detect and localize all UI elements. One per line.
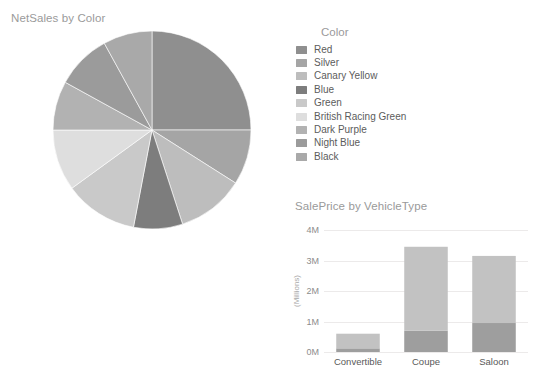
legend-item-label: Silver xyxy=(314,58,339,68)
pie-slice[interactable] xyxy=(152,31,251,130)
legend-item[interactable]: Silver xyxy=(293,56,453,69)
legend-item[interactable]: Black xyxy=(293,150,453,163)
legend-item-list: RedSilverCanary YellowBlueGreenBritish R… xyxy=(293,43,453,164)
pie-slice-group xyxy=(53,31,251,229)
bar-chart-svg: 0M1M2M3M4M ConvertibleCoupeSaloon (Milli… xyxy=(290,224,534,372)
pie-chart-title: NetSales by Color xyxy=(11,12,105,24)
legend-swatch-icon xyxy=(296,126,307,134)
bar-y-axis-ticks: 0M1M2M3M4M xyxy=(306,225,319,357)
legend-item[interactable]: British Racing Green xyxy=(293,110,453,123)
bar-x-axis-categories: ConvertibleCoupeSaloon xyxy=(334,356,509,367)
pie-chart-plot-area[interactable] xyxy=(52,30,252,230)
legend-item[interactable]: Dark Purple xyxy=(293,123,453,136)
legend-swatch-icon xyxy=(296,113,307,121)
legend-item[interactable]: Night Blue xyxy=(293,137,453,150)
bar-segment[interactable] xyxy=(336,334,380,349)
color-legend[interactable]: Color RedSilverCanary YellowBlueGreenBri… xyxy=(293,26,453,164)
legend-item-label: British Racing Green xyxy=(314,112,406,122)
bar-segment[interactable] xyxy=(404,331,448,352)
legend-item-label: Canary Yellow xyxy=(314,71,377,81)
y-axis-title-label: (Millions) xyxy=(292,275,301,307)
pie-chart-svg xyxy=(52,30,252,230)
bar-segment[interactable] xyxy=(472,323,516,352)
bar-y-axis-title: (Millions) xyxy=(292,275,301,307)
legend-item[interactable]: Red xyxy=(293,43,453,56)
legend-item-label: Dark Purple xyxy=(314,125,367,135)
legend-swatch-icon xyxy=(296,139,307,147)
legend-item-label: Blue xyxy=(314,85,334,95)
y-axis-tick-label: 0M xyxy=(306,347,319,357)
x-axis-category-label: Convertible xyxy=(334,356,382,367)
legend-swatch-icon xyxy=(296,72,307,80)
x-axis-category-label: Coupe xyxy=(412,356,440,367)
y-axis-tick-label: 1M xyxy=(306,317,319,327)
y-axis-tick-label: 3M xyxy=(306,256,319,266)
legend-item-label: Black xyxy=(314,152,338,162)
bar-segment[interactable] xyxy=(336,348,380,352)
saleprice-by-vehicletype-visual[interactable]: SalePrice by VehicleType 0M1M2M3M4M Conv… xyxy=(290,196,534,376)
legend-swatch-icon xyxy=(296,86,307,94)
legend-swatch-icon xyxy=(296,59,307,67)
bar-segment[interactable] xyxy=(472,256,516,323)
x-axis-category-label: Saloon xyxy=(479,356,509,367)
legend-item-label: Red xyxy=(314,45,332,55)
legend-item[interactable]: Canary Yellow xyxy=(293,70,453,83)
netsales-by-color-visual[interactable]: NetSales by Color xyxy=(0,0,290,260)
bar-series-group xyxy=(336,247,516,352)
legend-title: Color xyxy=(321,26,453,38)
bar-segment[interactable] xyxy=(404,247,448,331)
legend-swatch-icon xyxy=(296,99,307,107)
y-axis-tick-label: 2M xyxy=(306,286,319,296)
legend-item-label: Green xyxy=(314,98,342,108)
legend-item[interactable]: Blue xyxy=(293,83,453,96)
legend-item-label: Night Blue xyxy=(314,138,360,148)
legend-swatch-icon xyxy=(296,153,307,161)
legend-swatch-icon xyxy=(296,46,307,54)
bar-chart-plot-area[interactable]: 0M1M2M3M4M ConvertibleCoupeSaloon (Milli… xyxy=(290,224,534,372)
y-axis-tick-label: 4M xyxy=(306,225,319,235)
legend-item[interactable]: Green xyxy=(293,97,453,110)
bar-chart-title: SalePrice by VehicleType xyxy=(295,200,427,212)
